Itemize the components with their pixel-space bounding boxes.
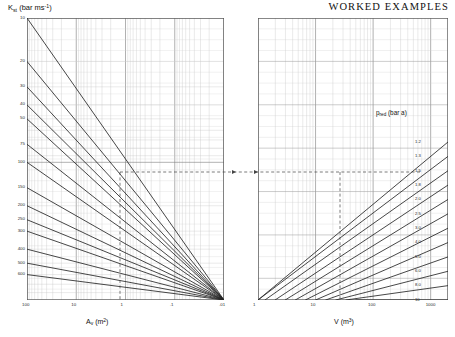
tick-label-layer: 100101.1.0110203040507510015020025030040…: [0, 0, 455, 337]
y-tick-kst-150: 150: [0, 185, 25, 189]
x-tick-v-1: 1: [253, 303, 255, 307]
y-tick-kst-30: 30: [0, 84, 25, 88]
pred-curve-label-2.5: 2.5: [415, 212, 421, 216]
pred-curve-label-8.0: 8.0: [415, 283, 421, 287]
y-tick-kst-250: 250: [0, 217, 25, 221]
pred-curve-label-6.0: 6.0: [415, 269, 421, 273]
pred-curve-label-1.3: 1.3: [415, 154, 421, 158]
pred-curve-label-2.0: 2.0: [415, 197, 421, 201]
y-tick-kst-400: 400: [0, 247, 25, 251]
pred-curve-label-4.0: 4.0: [415, 240, 421, 244]
y-tick-kst-200: 200: [0, 203, 25, 207]
y-tick-kst-300: 300: [0, 229, 25, 233]
y-tick-kst-50: 50: [0, 116, 25, 120]
pred-curve-label-1.2: 1.2: [415, 140, 421, 144]
y-tick-kst-40: 40: [0, 102, 25, 106]
x-tick-av-100: 100: [22, 303, 29, 307]
pred-curve-label-1.5: 1.5: [415, 169, 421, 173]
pred-curve-label-5.0: 5.0: [415, 255, 421, 259]
x-tick-v-100: 100: [368, 303, 375, 307]
x-tick-av-.1: .1: [170, 303, 174, 307]
y-tick-kst-75: 75: [0, 142, 25, 146]
pred-curve-label-3.0: 3.0: [415, 226, 421, 230]
x-tick-av-1: 1: [121, 303, 123, 307]
y-tick-kst-20: 20: [0, 59, 25, 63]
x-tick-v-10: 10: [311, 303, 316, 307]
y-tick-kst-100: 100: [0, 160, 25, 164]
worked-examples-nomograph-page: WORKED EXAMPLES Kst (bar ms-1) Av (m2) p…: [0, 0, 455, 337]
x-tick-av-.01: .01: [219, 303, 225, 307]
y-tick-kst-500: 500: [0, 261, 25, 265]
y-tick-kst-10: 10: [0, 16, 25, 20]
x-tick-v-1000: 1000: [426, 303, 436, 307]
y-tick-kst-600: 600: [0, 272, 25, 276]
pred-curve-label-10: 10: [415, 298, 420, 302]
pred-curve-label-1.8: 1.8: [415, 183, 421, 187]
x-tick-av-10: 10: [71, 303, 76, 307]
